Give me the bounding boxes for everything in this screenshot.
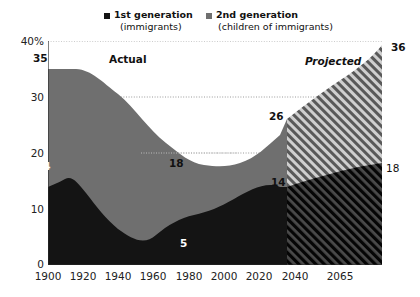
x-axis-label-1980: 1980 (169, 270, 209, 282)
data-label-total-1900-35: 35 (33, 52, 48, 64)
x-axis-label-2000: 2000 (204, 270, 244, 282)
y-axis-label-10: 10 (8, 203, 44, 215)
x-axis-label-1900: 1900 (28, 270, 68, 282)
legend-label-second-generation: 2nd generation (216, 9, 298, 20)
legend-label-first-generation: 1st generation (114, 9, 193, 20)
y-axis-label-30: 30 (8, 91, 44, 103)
data-label-first-gen-2065-18: 18 (386, 162, 399, 174)
data-label-first-gen-2015-14: 14 (271, 176, 286, 188)
x-axis-label-2020: 2020 (239, 270, 279, 282)
data-label-first-gen-min-5: 5 (180, 237, 187, 249)
area-chart-svg (48, 41, 382, 265)
y-axis-label-0: 0 (8, 258, 44, 270)
x-axis-label-1940: 1940 (98, 270, 138, 282)
plot-area (48, 41, 382, 265)
chart-legend: 1st generation (immigrants) 2nd generati… (0, 4, 420, 36)
legend-swatch-icon-first-generation (104, 13, 110, 19)
legend-item-second-generation[interactable]: 2nd generation (children of immigrants) (206, 9, 333, 32)
data-label-total-min-18: 18 (169, 157, 184, 169)
legend-sublabel-first-generation: (immigrants) (114, 21, 193, 33)
x-axis-label-2065: 2065 (320, 270, 360, 282)
y-axis-label-20: 20 (8, 147, 44, 159)
immigrant-generation-area-chart: 1st generation (immigrants) 2nd generati… (0, 0, 420, 297)
x-axis-label-1960: 1960 (133, 270, 173, 282)
x-axis-label-1920: 1920 (63, 270, 103, 282)
legend-swatch-icon-second-generation (206, 13, 212, 19)
data-label-total-2015-26: 26 (269, 110, 284, 122)
x-axis-label-2040: 2040 (275, 270, 315, 282)
legend-item-first-generation[interactable]: 1st generation (immigrants) (104, 9, 193, 32)
data-label-total-2065-36: 36 (391, 41, 406, 53)
legend-sublabel-second-generation: (children of immigrants) (216, 21, 333, 33)
y-axis-label-40: 40% (8, 35, 44, 47)
region-label-projected: Projected (305, 55, 361, 67)
region-label-actual: Actual (109, 53, 147, 65)
data-label-first-gen-1900-14: 14 (36, 160, 51, 172)
